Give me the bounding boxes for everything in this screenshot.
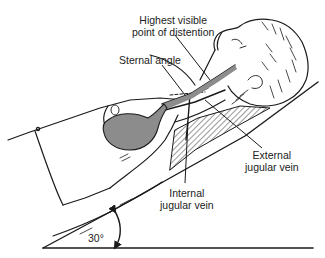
head-outline (214, 19, 308, 106)
ear (248, 76, 262, 89)
label-sternal-angle: Sternal angle (119, 54, 181, 66)
label-highest-point: Highest visible point of distention (132, 14, 214, 38)
jvp-illustration (0, 0, 325, 258)
angle-arc-icon (114, 210, 120, 246)
label-external-jugular: External jugular vein (245, 149, 299, 173)
label-internal-jugular: Internal jugular vein (160, 187, 214, 211)
label-angle: 30° (88, 232, 104, 244)
heart-shape (103, 104, 167, 150)
